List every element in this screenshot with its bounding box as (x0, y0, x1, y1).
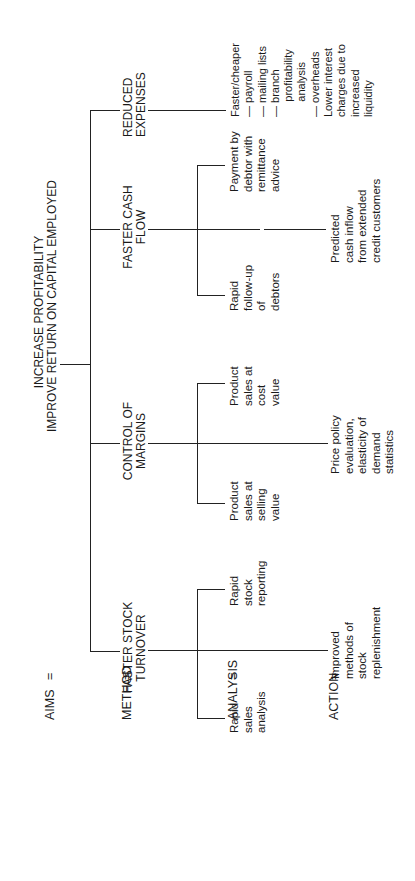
analysis-rapid-followup: Rapid follow-up of debtors (228, 265, 282, 311)
analysis-stock-bracket (197, 589, 198, 718)
action-stock-replenishment: Improved methods of stock replenishment (329, 607, 383, 679)
method-trunk (90, 110, 91, 652)
action-price-policy: Price policy evaluation, elasticity of d… (329, 415, 397, 474)
action-predicted-cash-inflow: Predicted cash inflow from extended cred… (329, 179, 383, 263)
branch-faster-cash-flow (90, 229, 120, 230)
method-faster-stock-turnover: FASTER STOCK TURNOVER (122, 603, 148, 693)
line-stock-action (148, 650, 328, 651)
stub-selling-value (197, 503, 225, 504)
aim-connector (60, 364, 90, 365)
line-expenses-action (148, 110, 226, 111)
analysis-rapid-stock: Rapid stock reporting (228, 561, 269, 606)
stub-rapid-stock (197, 589, 225, 590)
line-cash-action-2 (264, 229, 326, 230)
line-cash-action (148, 229, 260, 230)
analysis-margins-bracket (197, 383, 198, 504)
method-control-of-margins: CONTROL OF MARGINS (122, 401, 148, 481)
method-reduced-expenses: REDUCED EXPENSES (122, 81, 148, 137)
analysis-payment-by-debtor: Payment by debtor with remittance advice (228, 131, 282, 192)
row-sep-aims: = (44, 673, 58, 680)
branch-control-margins (90, 443, 120, 444)
line-margins-action (148, 443, 328, 444)
action-reduced-expenses: Faster/cheaper — payroll — mailing lists… (229, 43, 375, 117)
analysis-rapid-sales: Rapid sales analysis (228, 691, 269, 733)
branch-faster-stock (90, 651, 120, 652)
analysis-cash-bracket (197, 165, 198, 296)
aim-node: INCREASE PROFITABILITY IMPROVE RETURN ON… (33, 192, 59, 432)
stub-rapid-sales (197, 718, 225, 719)
branch-reduced-expenses (90, 110, 120, 111)
stub-payment-by-debtor (197, 165, 225, 166)
row-label-aims: AIMS (44, 689, 58, 720)
method-faster-cash-flow: FASTER CASH FLOW (122, 182, 148, 272)
stub-cost-value (197, 383, 225, 384)
analysis-selling-value: Product sales at selling value (228, 481, 282, 521)
stub-rapid-followup (197, 295, 225, 296)
row-sep-analysis: = (227, 673, 241, 680)
analysis-cost-value: Product sales at cost value (228, 366, 282, 406)
